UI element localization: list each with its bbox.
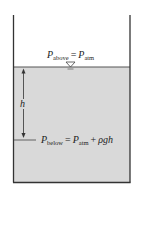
subscript-above: above bbox=[53, 54, 69, 61]
height-label: h bbox=[20, 99, 25, 109]
subscript-atm: atm bbox=[84, 54, 94, 61]
subscript-below: below bbox=[47, 139, 63, 146]
liquid-region bbox=[14, 67, 130, 182]
plus-sign: + bbox=[89, 134, 99, 145]
equals-sign: = bbox=[63, 134, 73, 145]
hydrostatic-term: ρgh bbox=[98, 134, 113, 145]
top-pressure-label: Pabove=Patm bbox=[47, 50, 94, 62]
subscript-atm: atm bbox=[79, 139, 89, 146]
bottom-pressure-label: Pbelow=Patm+ρgh bbox=[41, 135, 113, 147]
symbol-h: h bbox=[20, 98, 25, 109]
equals-sign: = bbox=[69, 49, 79, 60]
